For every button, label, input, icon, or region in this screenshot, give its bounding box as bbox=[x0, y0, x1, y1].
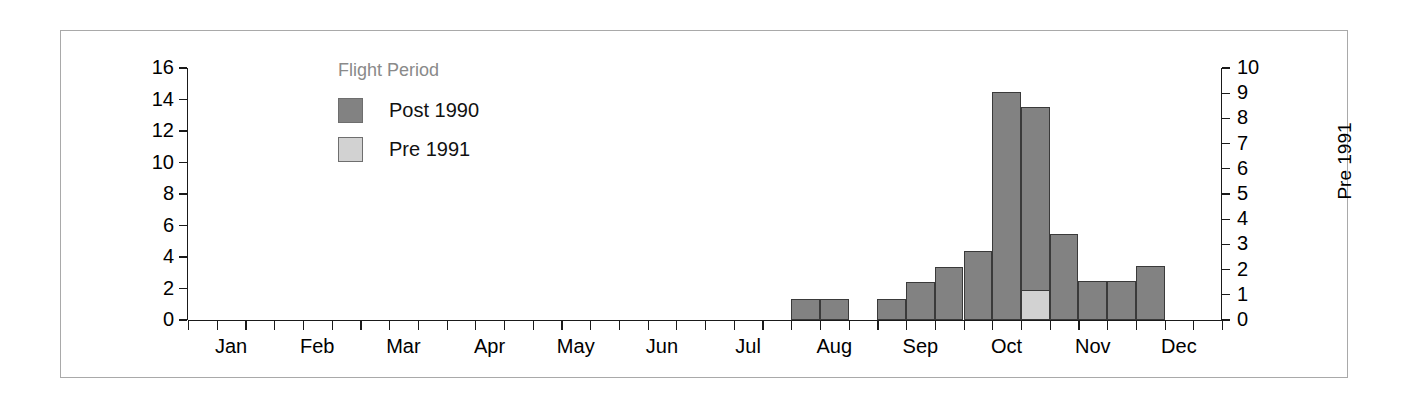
right-y-tick bbox=[1222, 93, 1230, 94]
right-y-tick-label: 3 bbox=[1237, 233, 1277, 253]
right-y-tick-label: 4 bbox=[1237, 208, 1277, 228]
x-tick bbox=[590, 321, 591, 330]
x-tick bbox=[734, 321, 735, 330]
x-axis-month-label: Nov bbox=[1048, 335, 1138, 358]
x-axis-month-label: Jun bbox=[617, 335, 707, 358]
x-tick bbox=[648, 321, 649, 330]
x-tick bbox=[1021, 321, 1022, 330]
legend-entry: Post 1990 bbox=[338, 98, 479, 123]
plot-area: JanFebMarAprMayJunJulAugSepOctNovDec 024… bbox=[0, 0, 1404, 404]
x-tick bbox=[245, 321, 246, 330]
right-y-tick-label: 8 bbox=[1237, 107, 1277, 127]
left-y-tick bbox=[179, 162, 187, 163]
bar-post-1990 bbox=[877, 299, 906, 320]
x-tick bbox=[1050, 321, 1051, 330]
x-tick bbox=[504, 321, 505, 330]
x-tick bbox=[217, 321, 218, 330]
right-y-tick bbox=[1222, 219, 1230, 220]
legend-swatch-icon bbox=[338, 98, 363, 123]
bar-pre-1991 bbox=[1021, 290, 1050, 320]
x-tick bbox=[475, 321, 476, 330]
x-axis-month-label: Feb bbox=[272, 335, 362, 358]
bar-post-1990 bbox=[1021, 107, 1050, 320]
bar-post-1990 bbox=[1050, 234, 1079, 320]
left-y-tick-label: 14 bbox=[134, 89, 174, 109]
bar-post-1990 bbox=[964, 251, 993, 320]
right-y-tick-label: 9 bbox=[1237, 82, 1277, 102]
bar-post-1990 bbox=[791, 299, 820, 320]
x-tick bbox=[1222, 321, 1223, 330]
left-y-tick-label: 12 bbox=[134, 120, 174, 140]
left-y-tick bbox=[179, 193, 187, 194]
x-tick bbox=[389, 321, 390, 330]
right-y-tick bbox=[1222, 319, 1230, 320]
x-tick bbox=[1165, 321, 1166, 330]
legend-entries: Post 1990Pre 1991 bbox=[338, 98, 479, 162]
right-y-tick-label: 5 bbox=[1237, 183, 1277, 203]
x-tick bbox=[274, 321, 275, 330]
x-tick bbox=[619, 321, 620, 330]
legend-entry-label: Post 1990 bbox=[389, 99, 479, 122]
left-y-tick bbox=[179, 319, 187, 320]
right-y-tick bbox=[1222, 67, 1230, 68]
x-tick bbox=[762, 321, 763, 330]
x-axis-month-label: Sep bbox=[875, 335, 965, 358]
x-tick bbox=[561, 321, 562, 330]
right-y-tick bbox=[1222, 244, 1230, 245]
bar-post-1990 bbox=[1136, 266, 1165, 320]
left-y-tick-label: 6 bbox=[134, 215, 174, 235]
left-y-tick-label: 10 bbox=[134, 152, 174, 172]
right-y-tick-label: 0 bbox=[1237, 309, 1277, 329]
right-y-tick-label: 2 bbox=[1237, 259, 1277, 279]
legend-entry-label: Pre 1991 bbox=[389, 138, 470, 161]
left-y-tick-label: 16 bbox=[134, 57, 174, 77]
bar-post-1990 bbox=[935, 267, 964, 320]
x-tick bbox=[906, 321, 907, 330]
x-tick bbox=[188, 321, 189, 330]
right-axis-title: Pre 1991 bbox=[1334, 71, 1356, 251]
x-tick bbox=[1107, 321, 1108, 330]
right-y-tick-label: 10 bbox=[1237, 57, 1277, 77]
left-y-tick-label: 0 bbox=[134, 309, 174, 329]
left-y-tick bbox=[179, 225, 187, 226]
left-y-tick bbox=[179, 99, 187, 100]
legend-entry: Pre 1991 bbox=[338, 137, 479, 162]
bar-post-1990 bbox=[820, 299, 849, 320]
left-y-tick-label: 4 bbox=[134, 246, 174, 266]
legend-swatch-icon bbox=[338, 137, 363, 162]
x-axis-month-label: Apr bbox=[445, 335, 535, 358]
bar-post-1990 bbox=[992, 92, 1021, 320]
right-y-tick bbox=[1222, 193, 1230, 194]
x-tick bbox=[705, 321, 706, 330]
x-axis-month-label: Mar bbox=[358, 335, 448, 358]
x-tick bbox=[360, 321, 361, 330]
left-y-tick bbox=[179, 288, 187, 289]
bar-post-1990 bbox=[906, 282, 935, 320]
x-tick bbox=[1193, 321, 1194, 330]
x-tick bbox=[303, 321, 304, 330]
right-y-tick bbox=[1222, 294, 1230, 295]
bar-post-1990 bbox=[1078, 281, 1107, 320]
x-axis-month-label: Dec bbox=[1134, 335, 1224, 358]
right-y-tick-label: 7 bbox=[1237, 133, 1277, 153]
x-tick bbox=[447, 321, 448, 330]
x-axis-month-label: May bbox=[531, 335, 621, 358]
x-tick bbox=[992, 321, 993, 330]
x-axis-month-label: Oct bbox=[962, 335, 1052, 358]
left-y-tick-label: 8 bbox=[134, 183, 174, 203]
right-y-tick-label: 1 bbox=[1237, 284, 1277, 304]
right-y-tick bbox=[1222, 143, 1230, 144]
chart-figure: JanFebMarAprMayJunJulAugSepOctNovDec 024… bbox=[0, 0, 1404, 404]
left-y-axis-line bbox=[187, 68, 188, 320]
left-y-tick-label: 2 bbox=[134, 278, 174, 298]
right-y-tick bbox=[1222, 118, 1230, 119]
x-tick bbox=[964, 321, 965, 330]
x-tick bbox=[418, 321, 419, 330]
x-tick bbox=[676, 321, 677, 330]
x-tick bbox=[849, 321, 850, 330]
x-tick bbox=[332, 321, 333, 330]
right-y-tick bbox=[1222, 168, 1230, 169]
x-axis-month-label: Aug bbox=[789, 335, 879, 358]
left-y-tick bbox=[179, 130, 187, 131]
x-tick bbox=[791, 321, 792, 330]
